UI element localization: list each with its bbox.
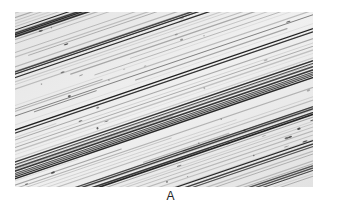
- micrograph-image: [15, 12, 313, 187]
- surface-striations: [15, 12, 313, 187]
- figure: A: [0, 0, 341, 205]
- figure-caption-label: A: [0, 189, 341, 203]
